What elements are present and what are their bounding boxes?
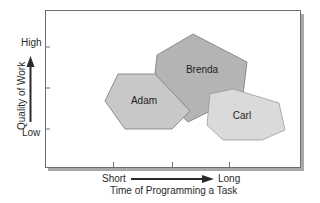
x-long-label: Long bbox=[218, 174, 240, 184]
y-axis-title: Quality of Work bbox=[17, 62, 27, 130]
region-label-adam: Adam bbox=[131, 96, 157, 106]
region-label-brenda: Brenda bbox=[186, 65, 218, 75]
x-short-label: Short bbox=[102, 174, 126, 184]
x-axis-title: Time of Programming a Task bbox=[110, 186, 237, 196]
region-label-carl: Carl bbox=[233, 111, 251, 121]
diagram-canvas bbox=[0, 0, 320, 203]
y-high-label: High bbox=[21, 38, 42, 48]
y-axis-arrow-head-icon bbox=[27, 56, 35, 67]
x-axis-arrow-head-icon bbox=[202, 175, 214, 183]
